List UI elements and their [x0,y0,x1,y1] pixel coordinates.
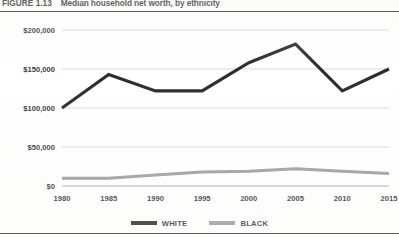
line-chart: $0$50,000$100,000$150,000$200,000 198019… [0,14,399,214]
x-tick-label: 1985 [100,194,118,203]
series-layer [62,44,389,178]
gridlines [62,30,389,186]
x-tick-label: 2015 [381,194,399,203]
figure-title: Median household net worth, by ethnicity [61,0,220,8]
legend-item-white: WHITE [131,219,188,228]
legend-swatch-black [209,221,235,224]
legend-item-black: BLACK [209,219,268,228]
legend-label-black: BLACK [240,219,268,228]
y-tick-label: $0 [47,182,55,191]
bottom-divider [0,233,399,234]
title-divider [0,11,399,12]
figure-number: FIGURE 1.13 [2,0,52,8]
x-tick-label: 2000 [240,194,257,203]
series-line-black [62,169,389,178]
y-tick-label: $100,000 [23,104,55,113]
legend-swatch-white [131,221,157,224]
y-tick-label: $50,000 [28,143,55,152]
x-tick-label: 2005 [287,194,305,203]
legend-label-white: WHITE [162,219,188,228]
x-axis-tick-labels: 19801985199019952000200520102015 [54,194,399,203]
x-tick-label: 2010 [334,194,351,203]
x-tick-label: 1980 [54,194,71,203]
x-tick-label: 1990 [147,194,164,203]
x-tick-label: 1995 [194,194,212,203]
y-tick-label: $150,000 [23,65,55,74]
page-title: FIGURE 1.13 Median household net worth, … [2,0,220,8]
series-line-white [62,44,389,108]
y-axis-tick-labels: $0$50,000$100,000$150,000$200,000 [23,26,55,191]
chart-area: $0$50,000$100,000$150,000$200,000 198019… [0,14,399,214]
chart-legend: WHITE BLACK [0,216,399,230]
y-tick-label: $200,000 [23,26,55,35]
